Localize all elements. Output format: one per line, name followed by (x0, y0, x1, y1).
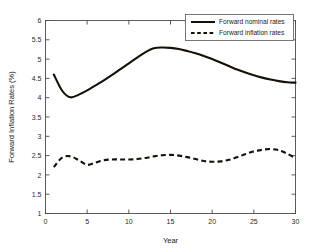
legend-label-inflation: Forward inflation rates (219, 29, 285, 36)
x-axis-ticks: 051015202530 (44, 21, 300, 225)
y-tick-label: 1.5 (32, 191, 42, 198)
x-tick-label: 20 (208, 218, 216, 225)
x-tick-label: 10 (125, 218, 133, 225)
series-line-nominal (54, 48, 296, 98)
x-axis-title: Year (163, 236, 179, 245)
chart-legend: Forward nominal rates Forward inflation … (186, 15, 294, 41)
y-tick-label: 6 (38, 17, 42, 24)
series-line-inflation (54, 149, 296, 167)
legend-label-nominal: Forward nominal rates (219, 18, 285, 25)
x-tick-label: 0 (44, 218, 48, 225)
y-tick-label: 5.5 (32, 36, 42, 43)
x-tick-label: 30 (292, 218, 300, 225)
x-tick-label: 15 (167, 218, 175, 225)
y-tick-label: 3 (38, 133, 42, 140)
plot-frame (46, 21, 296, 214)
y-tick-label: 3.5 (32, 114, 42, 121)
y-tick-label: 4 (38, 94, 42, 101)
y-tick-label: 5 (38, 56, 42, 63)
y-tick-label: 1 (38, 210, 42, 217)
x-tick-label: 25 (250, 218, 258, 225)
y-tick-label: 4.5 (32, 75, 42, 82)
y-axis-title: Forward Inflation Rates (%) (7, 71, 16, 163)
chart-figure: 11.522.533.544.555.56 051015202530 Year … (0, 0, 313, 252)
x-tick-label: 5 (85, 218, 89, 225)
data-series (54, 48, 296, 168)
y-tick-label: 2 (38, 172, 42, 179)
y-tick-label: 2.5 (32, 152, 42, 159)
line-chart: 11.522.533.544.555.56 051015202530 Year … (0, 0, 313, 252)
axes (46, 21, 296, 214)
